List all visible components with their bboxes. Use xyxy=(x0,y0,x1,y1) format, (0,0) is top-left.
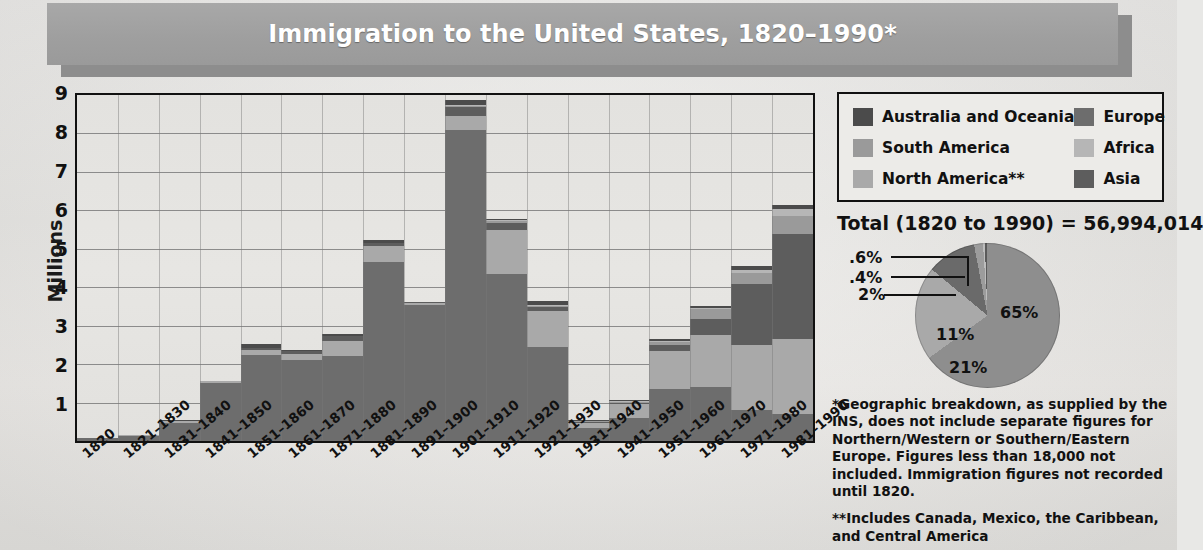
footnote-1: *Geographic breakdown, as supplied by th… xyxy=(832,396,1177,500)
column-separator xyxy=(772,95,773,441)
bar-segment xyxy=(772,209,813,216)
legend-item-label: Australia and Oceania xyxy=(882,108,1074,126)
bar-column xyxy=(445,95,486,441)
legend-item-north_america[interactable]: North America** xyxy=(853,163,1074,194)
bar-segment xyxy=(772,216,813,234)
x-axis-labels: 18201821–18301831–18401841–18501851–1860… xyxy=(75,443,815,550)
bar-segment xyxy=(486,230,527,274)
bar-segment xyxy=(649,351,690,389)
title-banner-bar: Immigration to the United States, 1820–1… xyxy=(47,3,1118,65)
legend-item-africa[interactable]: Africa xyxy=(1074,133,1165,164)
bar-segment xyxy=(363,246,404,262)
pie-slice-label: .6% xyxy=(849,248,882,267)
bar-column xyxy=(404,95,445,441)
legend-swatch-icon xyxy=(853,170,873,188)
y-axis-tick: 1 xyxy=(42,393,68,415)
pie-slice-label: 21% xyxy=(949,358,987,377)
legend-swatch-icon xyxy=(1074,139,1094,157)
column-separator xyxy=(159,95,160,441)
legend-item-label: Asia xyxy=(1103,170,1140,188)
bar-column xyxy=(200,95,241,441)
bar-column xyxy=(772,95,813,441)
column-separator xyxy=(649,95,650,441)
legend-item-asia[interactable]: Asia xyxy=(1074,163,1165,194)
legend-swatch-icon xyxy=(853,108,873,126)
bar-column xyxy=(568,95,609,441)
footnotes: *Geographic breakdown, as supplied by th… xyxy=(832,396,1177,550)
column-separator xyxy=(568,95,569,441)
page-title: Immigration to the United States, 1820–1… xyxy=(268,20,897,48)
column-separator xyxy=(486,95,487,441)
column-separator xyxy=(118,95,119,441)
legend-item-europe[interactable]: Europe xyxy=(1074,102,1165,133)
y-axis-title: Millions xyxy=(44,201,66,321)
bar-column xyxy=(649,95,690,441)
pie-slice-label: .4% xyxy=(849,268,882,287)
column-separator xyxy=(241,95,242,441)
legend-item-label: Europe xyxy=(1103,108,1165,126)
bar-segment xyxy=(690,309,731,319)
bar-chart-plot-area xyxy=(75,93,815,443)
bar-segment xyxy=(690,335,731,387)
bar-segment xyxy=(322,341,363,356)
column-separator xyxy=(527,95,528,441)
legend-item-label: South America xyxy=(882,139,1010,157)
footnote-2: **Includes Canada, Mexico, the Caribbean… xyxy=(832,510,1177,545)
legend-swatch-icon xyxy=(1074,108,1094,126)
bar-column xyxy=(241,95,282,441)
bar-column xyxy=(118,95,159,441)
bar-column xyxy=(322,95,363,441)
column-separator xyxy=(609,95,610,441)
bar-column xyxy=(486,95,527,441)
total-label: Total (1820 to 1990) = xyxy=(837,212,1083,234)
bar-column xyxy=(690,95,731,441)
pie-slice-label: 2% xyxy=(858,285,885,304)
legend-item-label: North America** xyxy=(882,170,1025,188)
pie-leader-line xyxy=(884,294,956,296)
chart-legend: Australia and OceaniaEuropeSouth America… xyxy=(837,92,1164,202)
bar-column xyxy=(731,95,772,441)
pie-slice-label: 11% xyxy=(936,325,974,344)
pie-leader-line xyxy=(967,256,969,286)
column-separator xyxy=(445,95,446,441)
y-axis-tick: 8 xyxy=(42,121,68,143)
bar-column xyxy=(77,95,118,441)
bar-column xyxy=(527,95,568,441)
total-line: Total (1820 to 1990) = 56,994,014 xyxy=(837,212,1177,234)
column-separator xyxy=(281,95,282,441)
legend-swatch-icon xyxy=(1074,170,1094,188)
legend-swatch-icon xyxy=(853,139,873,157)
column-separator xyxy=(200,95,201,441)
column-separator xyxy=(404,95,405,441)
bar-segment xyxy=(445,107,486,116)
bar-segment xyxy=(527,311,568,346)
bar-column xyxy=(159,95,200,441)
bar-segment xyxy=(731,273,772,284)
bar-segment xyxy=(445,116,486,130)
y-axis-tick: 2 xyxy=(42,354,68,376)
legend-item-label: Africa xyxy=(1103,139,1154,157)
title-banner: Immigration to the United States, 1820–1… xyxy=(47,3,1132,77)
total-value: 56,994,014 xyxy=(1083,212,1203,234)
bar-segment xyxy=(690,319,731,336)
column-separator xyxy=(322,95,323,441)
bar-segment xyxy=(445,130,486,441)
legend-item-south_america[interactable]: South America xyxy=(853,133,1074,164)
bar-segment xyxy=(731,284,772,345)
bar-segment xyxy=(772,234,813,339)
bar-column xyxy=(281,95,322,441)
bar-segment xyxy=(486,223,527,230)
column-separator xyxy=(363,95,364,441)
bar-column xyxy=(609,95,650,441)
y-axis-tick: 9 xyxy=(42,82,68,104)
column-separator xyxy=(731,95,732,441)
legend-item-australia_oceania[interactable]: Australia and Oceania xyxy=(853,102,1074,133)
pie-leader-line xyxy=(891,276,965,278)
pie-leader-line xyxy=(891,256,969,258)
y-axis-tick: 7 xyxy=(42,160,68,182)
pie-slice-label: 65% xyxy=(1000,303,1038,322)
column-separator xyxy=(690,95,691,441)
bar-column xyxy=(363,95,404,441)
